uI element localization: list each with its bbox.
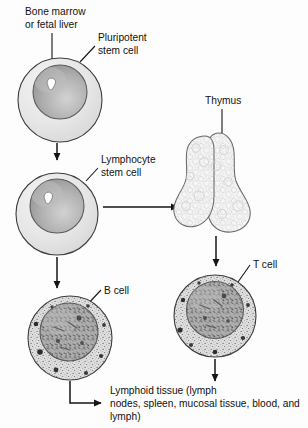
lymphoid-line2: nodes, spleen, mucosal tissue, blood, an…: [110, 398, 300, 409]
lymphocyte-line2: stem cell: [101, 167, 141, 178]
bone-marrow-line2: or fetal liver: [25, 19, 78, 30]
lymphocyte-line1: Lymphocyte: [101, 154, 156, 165]
pluripotent-line1: Pluripotent: [98, 32, 147, 43]
pluripotent-line2: stem cell: [98, 45, 138, 56]
t-cell: [174, 275, 256, 357]
b-cell-label: B cell: [104, 285, 129, 296]
lymphoid-line1: Lymphoid tissue (lymph: [110, 385, 217, 396]
lymphocyte-stem-cell: [16, 173, 98, 255]
b-cell: [28, 296, 112, 380]
pluripotent-stem-cell: [18, 58, 102, 142]
bone-marrow-line1: Bone marrow: [25, 6, 86, 17]
lymphoid-line3: lymph): [110, 411, 141, 422]
figure-root: Bone marrow or fetal liver Pluripotent s…: [0, 0, 308, 428]
thymus-label: Thymus: [205, 95, 241, 106]
t-cell-label: T cell: [253, 259, 277, 270]
lymphocyte-development-diagram: Bone marrow or fetal liver Pluripotent s…: [0, 0, 308, 428]
